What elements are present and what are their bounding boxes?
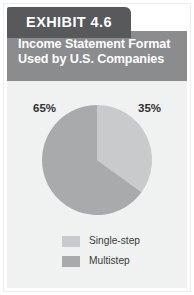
exhibit-title: Income Statement Format Used by U.S. Com… — [18, 37, 186, 67]
legend-item-multistep: Multistep — [7, 253, 187, 270]
legend-label-multistep: Multistep — [89, 256, 130, 266]
pie-label-multistep: 65% — [33, 103, 56, 115]
legend-item-single-step: Single-step — [7, 233, 187, 250]
exhibit-tab: EXHIBIT 4.6 — [7, 7, 131, 38]
exhibit-card: EXHIBIT 4.6 Income Statement Format Used… — [0, 0, 194, 295]
exhibit-title-line-1: Income Statement Format — [18, 37, 186, 52]
legend-label-single-step: Single-step — [89, 236, 140, 246]
exhibit-title-line-2: Used by U.S. Companies — [18, 52, 186, 67]
pie-chart: 65% 35% — [7, 81, 187, 231]
chart-legend: Single-step Multistep — [7, 233, 187, 273]
pie-label-single-step: 35% — [138, 103, 161, 115]
legend-swatch-multistep — [62, 256, 80, 267]
chart-panel: 65% 35% Single-step Multistep — [7, 81, 187, 288]
exhibit-header: EXHIBIT 4.6 Income Statement Format Used… — [7, 7, 187, 81]
exhibit-tab-label: EXHIBIT 4.6 — [26, 15, 112, 30]
legend-swatch-single-step — [62, 236, 80, 247]
